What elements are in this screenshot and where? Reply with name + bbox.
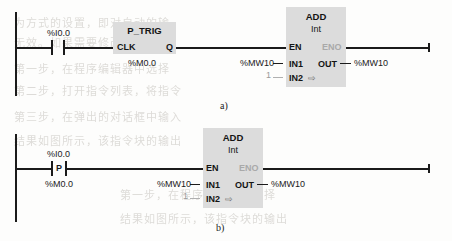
block-title: P_TRIG xyxy=(113,25,176,36)
block-subtitle: Int xyxy=(286,24,346,34)
pin-en: EN xyxy=(289,42,302,52)
pin-out: OUT xyxy=(235,180,254,190)
wire-contact-to-add-en xyxy=(67,168,203,170)
pin-in2: IN2 xyxy=(206,194,220,204)
ptrig-instance-label: %M0.0 xyxy=(128,58,156,68)
contact-address-label: %I0.0 xyxy=(47,28,70,38)
pin-clk: CLK xyxy=(117,42,136,52)
block-title: ADD xyxy=(203,132,263,143)
power-rail xyxy=(15,12,17,96)
bleed-text-line: 第三步，在弹出的对话框中输入 xyxy=(14,108,182,124)
contact-positive-edge[interactable]: P xyxy=(51,161,67,176)
stub-in2 xyxy=(273,77,283,78)
ladder-diagram-page: 为方式的设置，即对自动的输 无效。如果需要修改的话，可 第一步，在程序编辑器中选… xyxy=(0,0,452,241)
operand-out[interactable]: %MW10 xyxy=(354,58,388,68)
contact-memory-bit-label: %M0.0 xyxy=(45,179,73,189)
contact-bar-left xyxy=(51,40,53,55)
wire-ptrig-to-add-en xyxy=(176,47,286,49)
wire-eno-out xyxy=(263,168,430,170)
rung-end-terminator xyxy=(428,164,430,173)
pin-en: EN xyxy=(206,163,219,173)
operand-in1[interactable]: %MW10 xyxy=(157,179,191,189)
rung-end-terminator xyxy=(428,43,430,52)
operand-in2[interactable]: 1 xyxy=(266,70,271,80)
operand-out[interactable]: %MW10 xyxy=(271,179,305,189)
stub-in1 xyxy=(273,63,283,64)
block-subtitle: Int xyxy=(203,145,263,155)
pin-in1: IN1 xyxy=(206,180,220,190)
block-title: ADD xyxy=(286,11,346,22)
operand-in2[interactable]: 1 xyxy=(183,191,188,201)
contact-address-label: %I0.0 xyxy=(47,149,70,159)
pin-in2: IN2 xyxy=(289,73,303,83)
bleed-text-line: 结果如图所示，该指令块的输出 xyxy=(14,132,182,148)
figure-caption-b: b) xyxy=(216,222,224,233)
bleed-text-line: 第二步，打开指令列表，将指令 xyxy=(14,82,182,98)
figure-caption-a: a) xyxy=(220,100,228,111)
wire-rail-to-contact xyxy=(16,47,51,49)
contact-no-i00[interactable] xyxy=(51,40,65,55)
wire-eno-out xyxy=(346,47,430,49)
stub-in2 xyxy=(190,198,200,199)
expand-arrow-icon[interactable]: ⇨ xyxy=(225,195,233,204)
stub-out xyxy=(340,63,351,64)
operand-in1[interactable]: %MW10 xyxy=(240,58,274,68)
expand-arrow-icon[interactable]: ⇨ xyxy=(308,74,316,83)
pin-q: Q xyxy=(166,42,173,52)
contact-p-symbol: P xyxy=(51,162,67,174)
stub-in1 xyxy=(190,184,200,185)
pin-in1: IN1 xyxy=(289,59,303,69)
wire-rail-to-contact xyxy=(16,168,51,170)
wire-contact-to-ptrig xyxy=(65,47,113,49)
pin-eno: ENO xyxy=(322,42,342,52)
bleed-text-line: 结果如图所示，该指令块的输出 xyxy=(120,210,288,226)
pin-eno: ENO xyxy=(239,163,259,173)
stub-out xyxy=(257,184,268,185)
power-rail xyxy=(15,134,17,222)
pin-out: OUT xyxy=(318,59,337,69)
